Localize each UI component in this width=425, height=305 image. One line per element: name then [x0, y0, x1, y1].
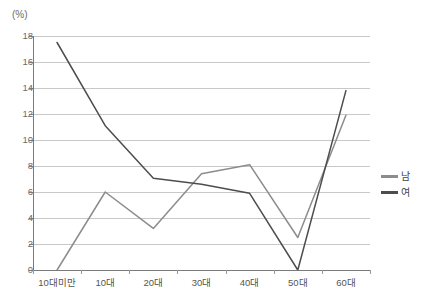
x-axis-tick-mark — [129, 270, 130, 274]
x-axis-tick-label: 10대미만 — [38, 277, 76, 289]
x-axis-tick-label: 40대 — [240, 277, 260, 289]
x-axis-tick-mark — [274, 270, 275, 274]
x-axis-tick-label: 20대 — [144, 277, 164, 289]
series-layer — [33, 36, 370, 270]
y-axis-line — [33, 36, 34, 270]
x-axis-tick-label: 30대 — [192, 277, 212, 289]
plot-area — [33, 36, 370, 270]
x-axis-tick-label: 60대 — [336, 277, 356, 289]
x-axis-tick-mark — [81, 270, 82, 274]
x-axis-tick-mark — [33, 270, 34, 274]
x-axis-tick-label: 10대 — [95, 277, 115, 289]
series-line — [57, 115, 346, 270]
legend-swatch-icon — [381, 191, 398, 194]
y-axis-tick-group: 024681012141618 — [0, 0, 33, 305]
line-chart: (%) 024681012141618 10대미만10대20대30대40대50대… — [0, 0, 425, 305]
x-axis-tick-mark — [370, 270, 371, 274]
legend-swatch-icon — [381, 175, 398, 178]
x-axis-tick-label: 50대 — [288, 277, 308, 289]
legend-item[interactable]: 여 — [381, 184, 425, 200]
legend-item[interactable]: 남 — [381, 168, 425, 184]
x-axis-tick-mark — [322, 270, 323, 274]
x-axis-line — [33, 270, 370, 271]
x-axis-tick-mark — [226, 270, 227, 274]
x-axis-tick-mark — [177, 270, 178, 274]
legend-label: 남 — [401, 171, 410, 182]
chart-legend: 남여 — [381, 168, 425, 200]
series-line — [57, 43, 346, 271]
legend-label: 여 — [401, 187, 410, 198]
